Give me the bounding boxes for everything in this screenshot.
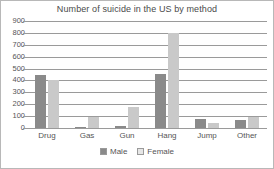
y-axis: 0100200300400500600700800900 [1,21,25,128]
legend-swatch-icon [137,148,144,155]
x-axis-tick-label: Gas [67,131,107,140]
bar-chart: Number of suicide in the US by method 01… [0,0,274,169]
y-axis-tick-label: 800 [3,29,25,37]
bar-group [227,21,267,128]
bar-male-drug [35,75,46,129]
y-axis-tick-label: 900 [3,17,25,25]
legend-label: Male [110,147,127,156]
y-axis-tick-label: 500 [3,65,25,73]
bar-male-hang [155,74,166,128]
x-axis-tick-label: Jump [187,131,227,140]
bar-male-gas [75,127,86,128]
chart-legend: MaleFemale [1,147,273,156]
y-axis-tick-label: 100 [3,112,25,120]
bar-group [67,21,107,128]
y-axis-tick-label: 0 [3,124,25,132]
bar-female-gun [128,107,139,128]
y-axis-tick-label: 200 [3,100,25,108]
bar-female-drug [48,80,59,128]
y-axis-tick-label: 300 [3,88,25,96]
bar-group [107,21,147,128]
x-axis-tick-label: Hang [147,131,187,140]
legend-item-female[interactable]: Female [137,147,174,156]
y-axis-tick-label: 400 [3,76,25,84]
bar-male-jump [195,119,206,129]
bar-female-hang [168,33,179,128]
gridline [27,128,267,129]
x-axis-tick-label: Other [227,131,267,140]
bar-female-jump [208,123,219,128]
bars-layer [27,21,267,128]
x-axis-tick-label: Gun [107,131,147,140]
bar-female-gas [88,117,99,128]
bar-group [27,21,67,128]
bar-male-other [235,120,246,128]
y-axis-tick-label: 600 [3,53,25,61]
bar-female-other [248,117,259,128]
legend-item-male[interactable]: Male [100,147,127,156]
bar-male-gun [115,126,126,128]
x-axis-tick-label: Drug [27,131,67,140]
chart-title: Number of suicide in the US by method [1,4,273,14]
plot-area [27,21,267,128]
legend-swatch-icon [100,148,107,155]
y-axis-tick-label: 700 [3,41,25,49]
bar-group [147,21,187,128]
x-axis: DrugGasGunHangJumpOther [27,131,267,143]
legend-label: Female [147,147,174,156]
bar-group [187,21,227,128]
